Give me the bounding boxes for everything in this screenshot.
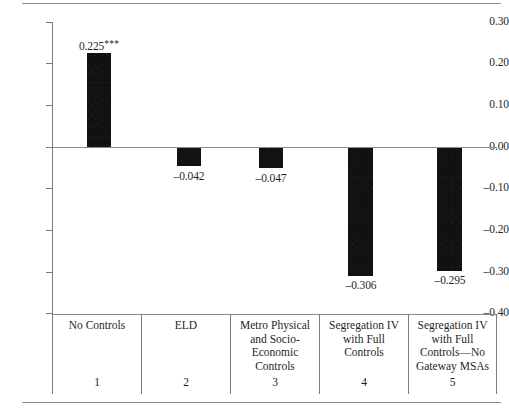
bar-5	[437, 148, 462, 271]
x-label-line: Controls	[322, 346, 406, 360]
x-axis-label-table: No Controls 1 ELD 2 Metro Physical and S…	[52, 314, 497, 394]
x-label-line: with Full	[411, 333, 494, 347]
bar-value-label-3: –0.047	[236, 172, 306, 184]
x-label-line: Economic	[233, 346, 317, 360]
bar-value-label-5: –0.295	[415, 274, 485, 286]
bar-2	[177, 148, 201, 166]
x-column-1: No Controls 1	[53, 314, 141, 394]
x-column-1-number: 1	[53, 376, 141, 388]
bottom-divider-rule	[22, 402, 501, 403]
y-tick-label: –0.20	[469, 224, 509, 236]
bar-value-label-2: –0.042	[154, 170, 224, 182]
x-label-line: with Full	[322, 333, 406, 347]
x-column-4-label: Segregation IV with Full Controls	[320, 319, 408, 360]
bar-3	[259, 148, 283, 168]
bar-significance-1: ***	[104, 39, 119, 49]
x-column-2: ELD 2	[142, 314, 230, 394]
x-column-2-number: 2	[142, 376, 230, 388]
x-column-3-label: Metro Physical and Socio- Economic Contr…	[231, 319, 319, 373]
bar-value-label-1: 0.225***	[64, 38, 134, 52]
x-column-5: Segregation IV with Full Controls—No Gat…	[409, 314, 496, 394]
x-label-line: and Socio-	[233, 333, 317, 347]
x-label-line: ELD	[144, 319, 228, 333]
bar-1	[87, 53, 111, 147]
x-column-3: Metro Physical and Socio- Economic Contr…	[231, 314, 319, 394]
x-label-line: Metro Physical	[233, 319, 317, 333]
x-label-line: Segregation IV	[411, 319, 494, 333]
x-column-3-number: 3	[231, 376, 319, 388]
bar-value-number-1: 0.225	[79, 40, 104, 52]
bar-chart-figure: 0.30 0.20 0.10 0.00 –0.10 –0.20 –0.30 –0…	[0, 0, 509, 412]
x-label-line: Gateway MSAs	[411, 360, 494, 374]
x-column-5-label: Segregation IV with Full Controls—No Gat…	[409, 319, 496, 373]
x-column-2-label: ELD	[142, 319, 230, 333]
top-divider-rule	[22, 3, 501, 4]
x-column-4: Segregation IV with Full Controls 4	[320, 314, 408, 394]
x-label-line: Controls	[233, 360, 317, 374]
y-tick-label: 0.20	[469, 57, 509, 69]
bar-4	[348, 148, 373, 276]
y-tick-label: 0.30	[469, 16, 509, 28]
x-column-4-number: 4	[320, 376, 408, 388]
x-column-divider	[496, 314, 497, 394]
x-label-line: Segregation IV	[322, 319, 406, 333]
y-tick-label: –0.10	[469, 182, 509, 194]
x-column-1-label: No Controls	[53, 319, 141, 333]
bar-value-label-4: –0.306	[326, 279, 396, 291]
x-label-line: Controls—No	[411, 346, 494, 360]
y-tick-label: 0.10	[469, 99, 509, 111]
y-axis-spine	[52, 22, 53, 314]
x-column-5-number: 5	[409, 376, 496, 388]
x-label-line: No Controls	[55, 319, 139, 333]
